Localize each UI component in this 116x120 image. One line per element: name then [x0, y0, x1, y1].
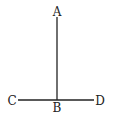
geometry-diagram: A B C D	[0, 0, 116, 120]
point-label-d: D	[95, 94, 105, 108]
point-label-c: C	[7, 94, 16, 108]
point-label-b: B	[53, 101, 62, 115]
point-label-a: A	[52, 5, 62, 19]
